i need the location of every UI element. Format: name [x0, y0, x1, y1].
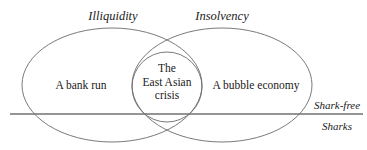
set-heading-illiquidity: Illiquidity [88, 9, 137, 24]
intersection-label-line-3: crisis [143, 89, 192, 103]
set-heading-insolvency: Insolvency [195, 9, 248, 24]
divider-label-shark-free: Shark-free [314, 99, 360, 112]
set-region-label-bank-run: A bank run [55, 79, 106, 93]
set-region-label-bubble-economy: A bubble economy [213, 79, 300, 93]
intersection-label-line-1: The [143, 62, 192, 76]
intersection-label-line-2: East Asian [143, 76, 192, 90]
divider-label-sharks: Sharks [322, 120, 352, 133]
intersection-label-east-asian-crisis: The East Asian crisis [143, 62, 192, 103]
venn-diagram-figure: Illiquidity Insolvency A bank run A bubb… [0, 0, 367, 150]
